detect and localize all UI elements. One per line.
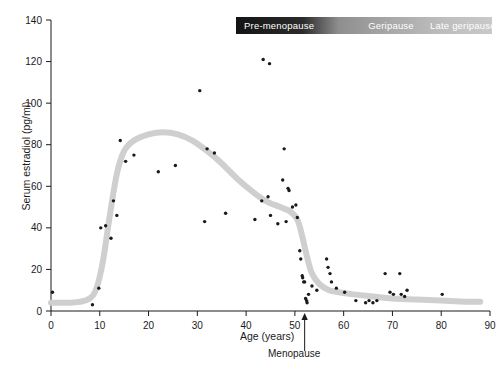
scatter-point [157,170,160,173]
x-axis-tick-label: 30 [192,320,204,331]
scatter-point [315,289,318,292]
scatter-point [299,257,302,260]
x-axis-title: Age (years) [240,330,294,342]
scatter-point [326,266,329,269]
x-axis-tick-label: 60 [338,320,350,331]
x-axis-tick-label: 90 [484,320,496,331]
scatter-point [403,295,406,298]
x-axis-tick-label: 20 [143,320,155,331]
scatter-point [371,301,374,304]
scatter-point [109,237,112,240]
scatter-point [303,280,306,283]
scatter-point [291,205,294,208]
x-axis-tick-label: 10 [94,320,106,331]
scatter-point [205,147,208,150]
scatter-point [213,151,216,154]
scatter-point [375,299,378,302]
scatter-point [310,284,313,287]
trend-curve [51,132,480,303]
scatter-point [132,153,135,156]
y-axis-tick-label: 120 [25,56,42,67]
scatter-point [287,189,290,192]
legend-segment-geripause: Geripause [352,17,430,34]
scatter-point [392,293,395,296]
x-axis-tick-label: 80 [436,320,448,331]
scatter-point [269,214,272,217]
scatter-point [198,89,201,92]
scatter-point [260,199,263,202]
scatter-point [305,301,308,304]
plot-area: 0204060801001201400102030405060708090 [0,0,499,365]
scatter-point [253,218,256,221]
scatter-point [261,58,264,61]
scatter-point [388,291,391,294]
x-axis-tick-label: 70 [387,320,399,331]
menopause-marker-group [301,313,307,351]
scatter-point [367,299,370,302]
scatter-point [281,178,284,181]
scatter-point [405,289,408,292]
scatter-point [91,303,94,306]
x-axis-tick-label: 0 [48,320,54,331]
y-axis-title: Serum estradiol (pg/ml) [20,86,32,226]
scatter-points-group [51,58,444,307]
y-axis-tick-label: 0 [36,306,42,317]
scatter-point [119,139,122,142]
y-axis-tick-label: 140 [25,15,42,26]
scatter-point [174,164,177,167]
scatter-point [266,195,269,198]
scatter-point [307,293,310,296]
scatter-point [296,216,299,219]
scatter-point [284,220,287,223]
scatter-point [354,299,357,302]
scatter-point [301,276,304,279]
y-axis-tick-label: 40 [31,222,43,233]
scatter-point [298,249,301,252]
phase-legend: Pre-menopause Geripause Late geripause [236,17,492,34]
scatter-point [51,291,54,294]
scatter-point [294,203,297,206]
scatter-point [325,257,328,260]
estradiol-chart: 0204060801001201400102030405060708090 Pr… [0,0,499,365]
scatter-point [276,222,279,225]
scatter-point [383,272,386,275]
scatter-point [441,293,444,296]
y-axis-tick-label: 60 [31,181,43,192]
scatter-point [112,199,115,202]
scatter-point [203,220,206,223]
menopause-annotation-label: Menopause [268,348,320,359]
y-axis-tick-label: 20 [31,264,43,275]
scatter-point [224,212,227,215]
scatter-point [99,226,102,229]
scatter-point [330,280,333,283]
trend-curve-group [51,132,480,303]
scatter-point [115,214,118,217]
scatter-point [97,286,100,289]
scatter-point [282,147,285,150]
scatter-point [400,293,403,296]
scatter-point [328,272,331,275]
scatter-point [335,286,338,289]
menopause-arrow-head [301,313,307,320]
scatter-point [268,62,271,65]
scatter-point [343,291,346,294]
y-axis-tick-label: 80 [31,139,43,150]
scatter-point [104,224,107,227]
scatter-point [398,272,401,275]
legend-segment-late-geripause: Late geripause [430,17,496,34]
legend-segment-pre-menopause: Pre-menopause [236,17,352,34]
scatter-point [124,160,127,163]
scatter-point [364,301,367,304]
